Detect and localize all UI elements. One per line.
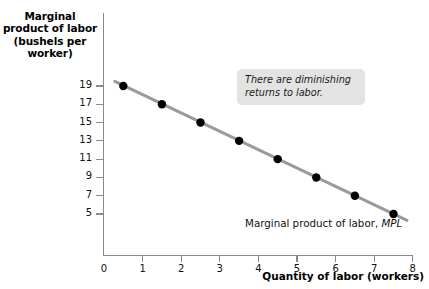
x-axis-title: Quantity of labor (workers) bbox=[228, 270, 424, 282]
chart-figure: Marginal product of labor (bushels per w… bbox=[0, 0, 429, 289]
data-point bbox=[235, 137, 243, 145]
data-point bbox=[351, 192, 359, 200]
mpl-curve-label-symbol: MPL bbox=[381, 217, 402, 229]
data-point bbox=[158, 100, 166, 108]
mpl-curve-label: Marginal product of labor, MPL bbox=[245, 217, 402, 229]
plot-area bbox=[0, 0, 429, 289]
annotation-line-1: There are diminishing bbox=[245, 74, 358, 87]
annotation-callout: There are diminishing returns to labor. bbox=[237, 69, 365, 105]
data-point bbox=[274, 155, 282, 163]
annotation-line-2: returns to labor. bbox=[245, 87, 358, 100]
data-point bbox=[196, 118, 204, 126]
data-point bbox=[312, 173, 320, 181]
data-point bbox=[119, 82, 127, 90]
mpl-curve-label-text: Marginal product of labor, bbox=[245, 217, 381, 229]
